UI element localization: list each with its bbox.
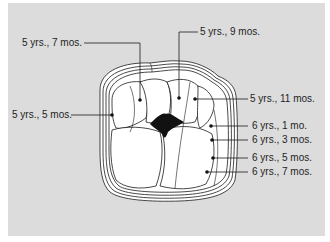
label-5yrs-7mos: 5 yrs., 7 mos. (22, 37, 82, 49)
label-5yrs-11mos: 5 yrs., 11 mos. (250, 93, 315, 105)
label-6yrs-5mos: 6 yrs., 5 mos. (252, 152, 312, 164)
label-5yrs-5mos: 5 yrs., 5 mos. (12, 109, 72, 121)
label-6yrs-3mos: 6 yrs., 3 mos. (252, 134, 312, 146)
label-6yrs-7mos: 6 yrs., 7 mos. (252, 166, 312, 178)
label-5yrs-9mos: 5 yrs., 9 mos. (200, 26, 260, 38)
label-6yrs-1mo: 6 yrs., 1 mo. (252, 120, 307, 132)
